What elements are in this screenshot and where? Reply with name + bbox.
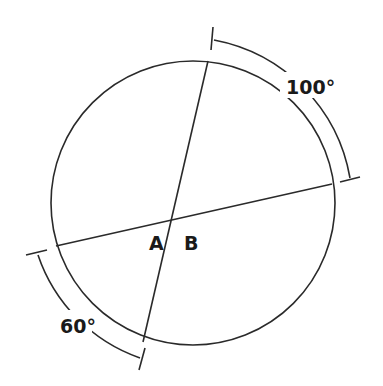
arc-marker-100 — [214, 40, 350, 178]
chord-steep — [143, 61, 208, 342]
angle-label-a: A — [149, 232, 164, 254]
arc-tick-60-start — [26, 250, 47, 255]
angle-label-b: B — [184, 232, 198, 254]
arc-label-60: 60° — [60, 315, 96, 337]
circle — [51, 61, 335, 345]
diagram-canvas: 100° 60° A B — [0, 0, 383, 386]
geometry-figure: 100° 60° A B — [0, 0, 383, 386]
arc-marker-60 — [38, 255, 140, 358]
arc-tick-60-end — [139, 348, 145, 370]
arc-label-100: 100° — [286, 76, 335, 98]
arc-tick-100-start — [211, 27, 213, 50]
